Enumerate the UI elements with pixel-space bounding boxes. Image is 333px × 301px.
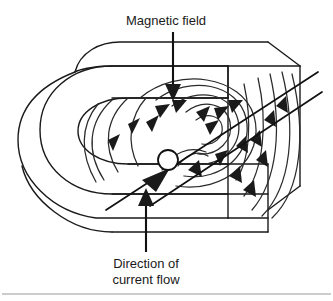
wire-cross-section-circle [158, 150, 178, 170]
current-flow-label-line1: Direction of [113, 256, 179, 271]
diagram-canvas: Magnetic field Direction of current flow [0, 0, 333, 301]
magnetic-field-diagram: Magnetic field Direction of current flow [0, 0, 333, 301]
current-flow-label-line2: current flow [112, 272, 180, 287]
magnetic-field-label: Magnetic field [126, 13, 206, 28]
